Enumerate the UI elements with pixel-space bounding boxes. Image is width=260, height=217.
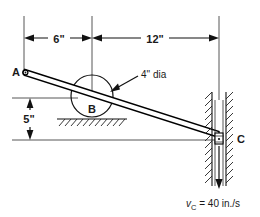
velocity-label-c: vC = 40 in./s [186, 198, 240, 212]
dimension-12in: 12" [92, 30, 219, 46]
wall-hatch-icon-left [205, 92, 212, 183]
arrowhead-bottom-5in [27, 130, 34, 140]
vertical-guide-c: C [205, 92, 245, 186]
annotation-cylinder-diameter: 4" dia [110, 69, 167, 92]
rod-ac [23, 70, 219, 138]
annotation-label-4in-dia: 4" dia [141, 69, 167, 80]
arrowhead-right-12in [209, 35, 219, 42]
down-arrow-icon [215, 179, 222, 189]
wall-hatch-icon-right [226, 92, 233, 183]
pin-joint-c [218, 138, 220, 140]
rod-body [25, 70, 219, 138]
arrowhead-left-6in [24, 35, 34, 42]
dimension-label-12in: 12" [146, 33, 163, 45]
extension-lines [24, 16, 219, 100]
pin-joint-center-dot [25, 72, 27, 74]
diagram-canvas: 6" 12" 5" B [0, 0, 260, 217]
point-label-a: A [12, 66, 20, 78]
arrowhead-left-12in [92, 35, 102, 42]
engineering-diagram-figure: 6" 12" 5" B [0, 0, 260, 217]
dimension-label-6in: 6" [53, 33, 64, 45]
point-label-c: C [237, 133, 245, 145]
arrowhead-right-6in [82, 35, 92, 42]
dimension-6in: 6" [24, 30, 92, 46]
dimension-5in: 5" [16, 98, 42, 140]
dimension-label-5in: 5" [23, 113, 34, 125]
ground-support [57, 119, 127, 126]
arrowhead-top-5in [27, 98, 34, 108]
velocity-value: 40 in./s [208, 198, 240, 209]
point-label-b: B [88, 103, 96, 115]
ground-hatch-icon [59, 119, 125, 126]
